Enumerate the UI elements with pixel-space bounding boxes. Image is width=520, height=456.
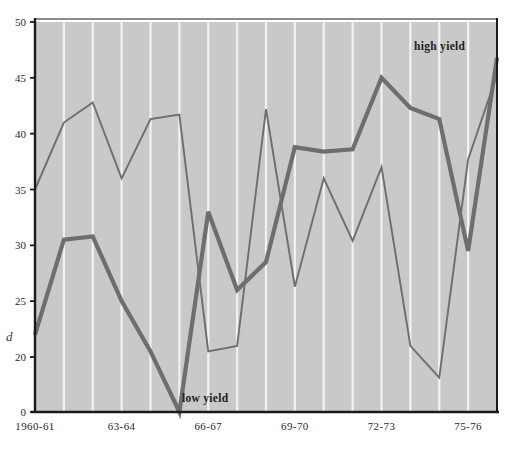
y-tick-label: 20	[15, 351, 27, 363]
x-tick-label: 69-70	[281, 420, 309, 432]
y-axis-ticks: 020253035404550	[15, 16, 35, 418]
y-axis-title: d	[6, 329, 13, 344]
chart-figure: 0202530354045501960-6163-6466-6769-7072-…	[0, 0, 520, 456]
x-tick-label: 63-64	[108, 420, 136, 432]
y-tick-label: 30	[15, 239, 27, 251]
y-tick-label: 0	[21, 406, 27, 418]
x-tick-label: 66-67	[194, 420, 222, 432]
x-tick-label: 72-73	[368, 420, 396, 432]
y-tick-label: 35	[15, 184, 27, 196]
x-axis-ticks: 1960-6163-6466-6769-7072-7375-76	[15, 420, 482, 432]
line-chart: 0202530354045501960-6163-6466-6769-7072-…	[0, 0, 520, 456]
y-tick-label: 40	[15, 128, 27, 140]
x-tick-label: 1960-61	[15, 420, 54, 432]
y-tick-label: 45	[15, 72, 27, 84]
y-tick-label: 50	[15, 16, 27, 28]
low-yield-label: low yield	[182, 392, 229, 405]
y-tick-label: 25	[15, 295, 27, 307]
high-yield-label: high yield	[414, 40, 466, 53]
x-tick-label: 75-76	[454, 420, 482, 432]
